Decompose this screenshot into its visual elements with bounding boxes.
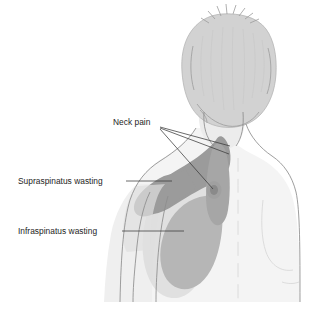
anatomy-figure: Neck pain Supraspinatus wasting Infraspi… (0, 0, 316, 318)
hair-mass (182, 14, 276, 128)
label-neck-pain: Neck pain (113, 117, 151, 127)
label-supraspinatus-wasting: Supraspinatus wasting (18, 176, 103, 186)
anatomy-illustration: Neck pain Supraspinatus wasting Infraspi… (0, 0, 316, 318)
label-infraspinatus-wasting: Infraspinatus wasting (18, 226, 97, 236)
head (182, 4, 276, 127)
